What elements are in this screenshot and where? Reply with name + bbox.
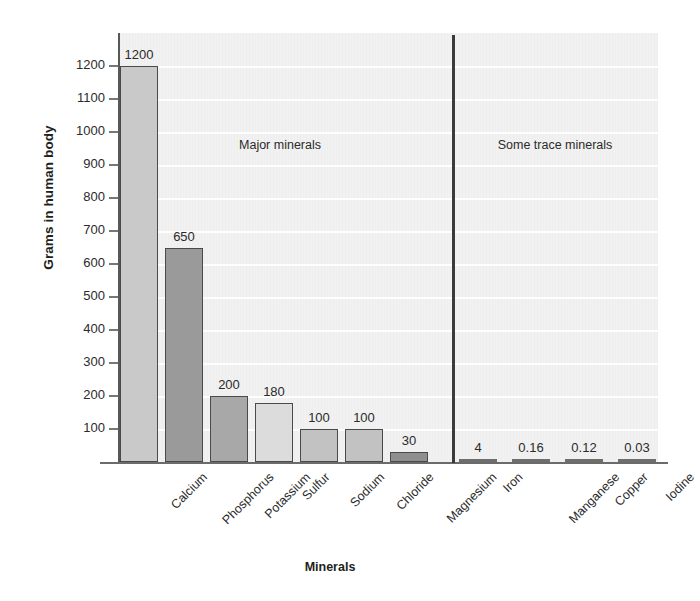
y-axis-tick <box>109 230 118 232</box>
x-axis-category-label: Magnesium <box>444 470 500 526</box>
y-axis-tick <box>109 296 118 298</box>
y-axis-tick <box>109 197 118 199</box>
gridline <box>120 165 660 167</box>
y-axis-tick <box>109 98 118 100</box>
x-axis-category-label: Calcium <box>168 470 210 512</box>
gridline <box>120 66 660 68</box>
y-axis-tick-label: 200 <box>45 387 105 402</box>
bar-value-label: 180 <box>234 384 314 399</box>
y-axis-tick-label: 1000 <box>45 123 105 138</box>
gridline <box>120 99 660 101</box>
y-axis-tick-label: 500 <box>45 288 105 303</box>
y-axis-tick <box>109 329 118 331</box>
y-axis-tick <box>109 362 118 364</box>
bar-sodium <box>300 429 338 462</box>
x-axis-category-label: Phosphorus <box>220 470 277 527</box>
x-axis-category-label: Iodine <box>663 470 697 504</box>
y-axis-tick-label: 400 <box>45 321 105 336</box>
y-axis-tick <box>109 395 118 397</box>
mineral-content-bar-chart: Grams in human body 10020030040050060070… <box>0 0 700 601</box>
y-axis-tick-label: 1200 <box>45 57 105 72</box>
y-axis-tick-label: 800 <box>45 189 105 204</box>
y-axis-tick-label: 100 <box>45 420 105 435</box>
group-title-trace-minerals: Some trace minerals <box>460 138 650 152</box>
y-axis-tick-label: 1100 <box>45 90 105 105</box>
bar-magnesium <box>390 452 428 462</box>
y-axis-tick <box>109 131 118 133</box>
y-axis-tick-label: 300 <box>45 354 105 369</box>
y-axis-tick <box>109 428 118 430</box>
y-axis-tick <box>109 65 118 67</box>
bar-phosphorus <box>165 248 203 463</box>
bar-value-label: 650 <box>144 229 224 244</box>
y-axis-tick <box>109 164 118 166</box>
y-axis-tick-label: 600 <box>45 255 105 270</box>
group-title-major-minerals: Major minerals <box>180 138 380 152</box>
y-axis-tick <box>109 263 118 265</box>
bar-value-label: 0.03 <box>597 440 677 455</box>
x-axis-category-label: Sodium <box>347 470 387 510</box>
bar-value-label: 30 <box>369 433 449 448</box>
group-divider-line <box>452 35 455 463</box>
gridline <box>120 198 660 200</box>
gridline <box>120 132 660 134</box>
bar-potassium <box>210 396 248 462</box>
y-axis-tick-label: 700 <box>45 222 105 237</box>
y-axis-tick-label: 900 <box>45 156 105 171</box>
bar-calcium <box>120 66 158 462</box>
x-axis-title: Minerals <box>250 560 410 574</box>
x-axis-category-label: Chloride <box>394 470 437 513</box>
bar-value-label: 100 <box>324 410 404 425</box>
x-axis-category-label: Iron <box>500 470 525 495</box>
x-axis-line <box>100 462 668 464</box>
bar-value-label: 1200 <box>99 47 179 62</box>
